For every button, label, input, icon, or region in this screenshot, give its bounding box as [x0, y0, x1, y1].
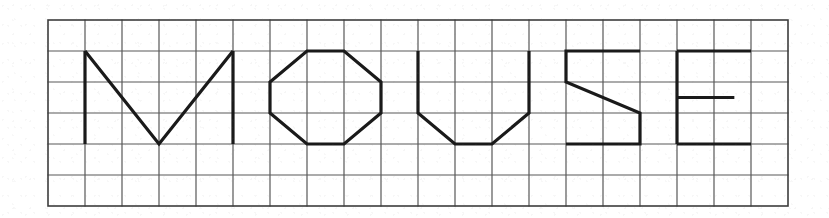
page-background: [0, 0, 829, 218]
scanned-page: [0, 0, 829, 218]
grid-drawing: [0, 0, 829, 218]
